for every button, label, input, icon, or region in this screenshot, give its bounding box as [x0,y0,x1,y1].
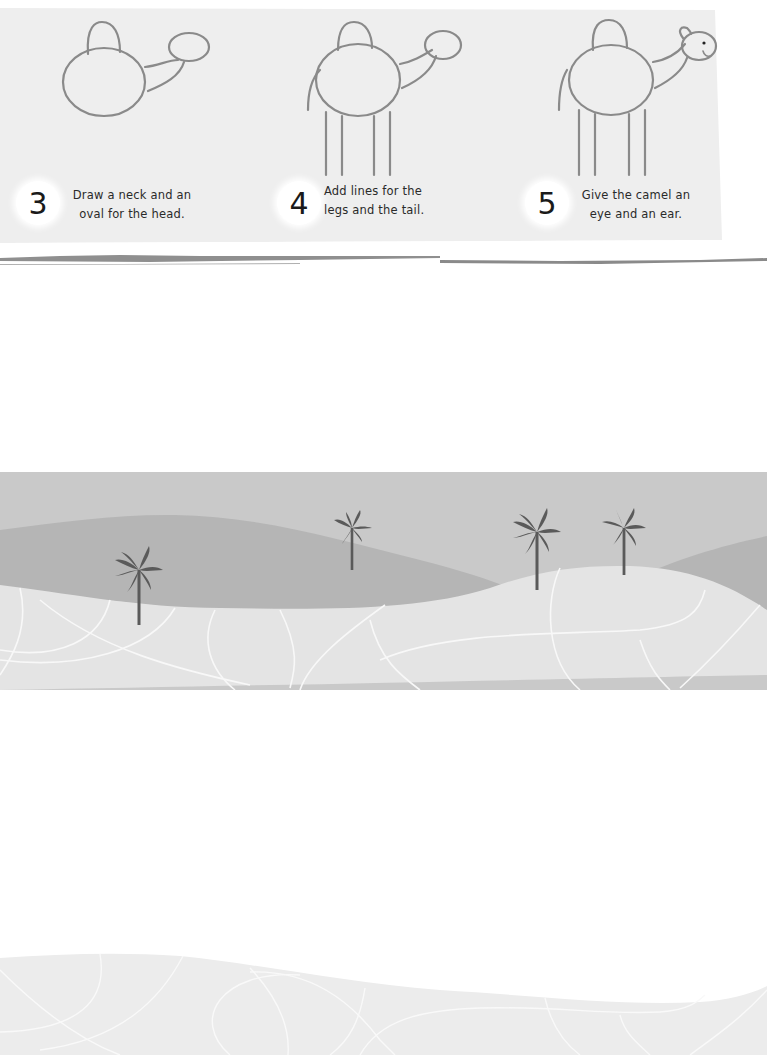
step-text-line-2: legs and the tail. [324,201,444,220]
desert-scene [0,460,767,695]
camel-drawing-step-5-icon [507,0,757,180]
step-3: 3 Draw a neck and an oval for the head. [0,0,250,250]
step-text-line-1: Add lines for the [324,182,444,201]
step-number-badge: 3 [16,181,60,225]
camel-drawing-step-4-icon [260,0,510,180]
step-number-badge: 4 [277,181,321,225]
step-number-badge: 5 [525,181,569,225]
step-instruction: Draw a neck and an oval for the head. [62,186,202,224]
step-text-line-1: Give the camel an [571,186,701,205]
step-instruction: Add lines for the legs and the tail. [324,182,444,220]
step-text-line-1: Draw a neck and an [62,186,202,205]
step-text-line-2: oval for the head. [62,205,202,224]
bottom-sand-dunes [0,940,767,1055]
instructions-panel: 3 Draw a neck and an oval for the head. … [0,0,767,252]
step-instruction: Give the camel an eye and an ear. [571,186,701,224]
camel-drawing-step-3-icon [0,0,250,180]
step-text-line-2: eye and an ear. [571,205,701,224]
step-4: 4 Add lines for the legs and the tail. [260,0,510,250]
torn-edge-divider [0,250,767,270]
step-5: 5 Give the camel an eye and an ear. [507,0,757,250]
